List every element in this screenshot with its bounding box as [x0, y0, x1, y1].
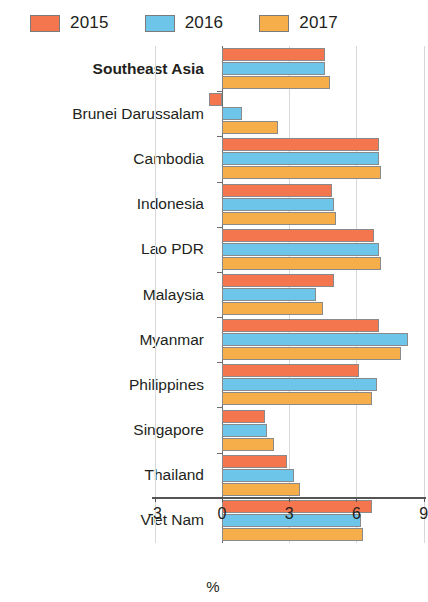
- gridline--3: [155, 46, 156, 543]
- x-tick-label-9: 9: [419, 505, 428, 523]
- x-axis-title: %: [0, 578, 426, 595]
- bar-2016-southeast-asia: [222, 62, 325, 75]
- bar-2017-viet-nam: [222, 528, 363, 541]
- legend-swatch-2015: [30, 15, 60, 32]
- bar-2016-indonesia: [222, 198, 334, 211]
- bar-2015-singapore: [222, 410, 265, 423]
- bar-2015-southeast-asia: [222, 48, 325, 61]
- bar-2017-philippines: [222, 392, 372, 405]
- legend-item-2016: 2016: [145, 13, 224, 33]
- legend-label-2016: 2016: [185, 13, 224, 33]
- bar-2017-malaysia: [222, 302, 323, 315]
- bar-2015-viet-nam: [222, 500, 372, 513]
- bar-2017-southeast-asia: [222, 76, 330, 89]
- bar-2015-indonesia: [222, 184, 332, 197]
- bar-2015-cambodia: [222, 138, 379, 151]
- legend-swatch-2016: [145, 15, 175, 32]
- bar-2016-philippines: [222, 378, 377, 391]
- category-tick: [217, 182, 222, 183]
- bar-2016-cambodia: [222, 152, 379, 165]
- bar-2016-thailand: [222, 469, 294, 482]
- bar-2015-malaysia: [222, 274, 334, 287]
- category-tick: [217, 407, 222, 408]
- legend-swatch-2017: [259, 15, 289, 32]
- chart-legend: 201520162017: [0, 0, 426, 46]
- bars-area: [152, 46, 426, 543]
- x-tick-mark-9: [424, 497, 425, 502]
- bar-2017-singapore: [222, 438, 274, 451]
- bar-2015-brunei-darussalam: [209, 93, 222, 106]
- x-tick-mark-0: [222, 497, 223, 502]
- legend-item-2017: 2017: [259, 13, 338, 33]
- x-tick-label-0: 0: [218, 505, 227, 523]
- gridline-9: [424, 46, 425, 543]
- bar-2017-indonesia: [222, 212, 336, 225]
- legend-item-2015: 2015: [30, 13, 109, 33]
- category-tick: [217, 272, 222, 273]
- bar-2017-thailand: [222, 483, 300, 496]
- bar-2017-cambodia: [222, 166, 381, 179]
- x-tick-mark--3: [155, 497, 156, 502]
- bar-2016-brunei-darussalam: [222, 107, 242, 120]
- category-tick: [217, 317, 222, 318]
- bar-2015-philippines: [222, 364, 359, 377]
- x-tick-label-3: 3: [285, 505, 294, 523]
- bar-2017-brunei-darussalam: [222, 121, 278, 134]
- bar-2017-myanmar: [222, 347, 401, 360]
- bar-2015-myanmar: [222, 319, 379, 332]
- bar-2017-lao-pdr: [222, 257, 381, 270]
- bar-2016-malaysia: [222, 288, 316, 301]
- x-tick-mark-3: [289, 497, 290, 502]
- bar-2015-thailand: [222, 455, 287, 468]
- x-tick-label--3: -3: [148, 505, 162, 523]
- category-tick: [217, 136, 222, 137]
- category-tick: [217, 227, 222, 228]
- bar-2015-lao-pdr: [222, 229, 374, 242]
- x-tick-label-6: 6: [352, 505, 361, 523]
- plot-area: Southeast AsiaBrunei DarussalamCambodiaI…: [0, 46, 426, 556]
- bar-2016-myanmar: [222, 333, 408, 346]
- bar-2016-singapore: [222, 424, 267, 437]
- legend-label-2017: 2017: [299, 13, 338, 33]
- x-tick-mark-6: [356, 497, 357, 502]
- gridline-6: [356, 46, 357, 543]
- bar-2016-lao-pdr: [222, 243, 379, 256]
- category-tick: [217, 362, 222, 363]
- category-tick: [217, 91, 222, 92]
- category-tick: [217, 453, 222, 454]
- legend-label-2015: 2015: [70, 13, 109, 33]
